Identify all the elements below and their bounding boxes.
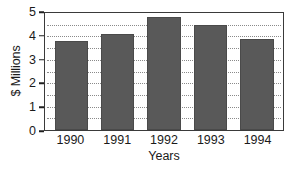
bar-1992 <box>147 17 180 130</box>
bar-1994 <box>240 39 273 130</box>
bar-slot <box>48 13 94 130</box>
bar-1990 <box>55 41 88 130</box>
bars-layer <box>45 13 283 130</box>
y-tick-label: 0 <box>29 125 36 138</box>
bar-slot <box>187 13 233 130</box>
x-tick-label: 1992 <box>141 134 188 147</box>
bar-1993 <box>194 25 227 130</box>
bar-slot <box>234 13 280 130</box>
bar-chart-figure: $ Millions 012345 19901991199219931994 Y… <box>0 0 296 177</box>
y-tick-label: 2 <box>29 77 36 90</box>
x-tick-label: 1990 <box>47 134 94 147</box>
x-tick-label: 1993 <box>187 134 234 147</box>
plot-frame <box>44 12 284 131</box>
x-tick-label: 1994 <box>234 134 281 147</box>
y-tick-label: 4 <box>29 30 36 43</box>
bar-slot <box>141 13 187 130</box>
bar-1991 <box>101 34 134 130</box>
x-axis-tick-labels: 19901991199219931994 <box>44 134 284 147</box>
y-tick-label: 5 <box>29 6 36 19</box>
y-axis-tick-labels: 012345 <box>22 12 36 131</box>
plot-area <box>45 13 283 130</box>
x-axis-title: Years <box>44 150 284 163</box>
x-tick-label: 1991 <box>94 134 141 147</box>
y-tick-label: 3 <box>29 53 36 66</box>
bar-slot <box>94 13 140 130</box>
y-tick-label: 1 <box>29 101 36 114</box>
y-axis-title-text: $ Millions <box>9 45 23 96</box>
